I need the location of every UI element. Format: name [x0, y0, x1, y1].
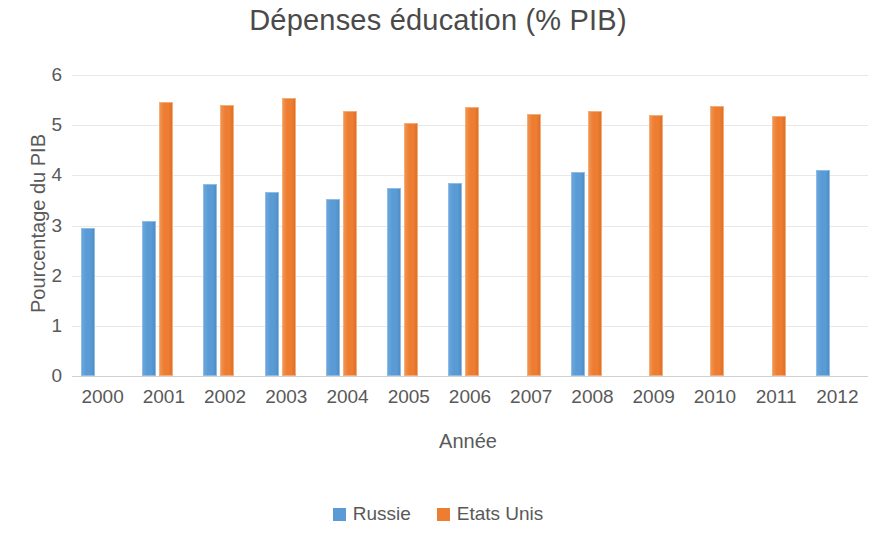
bar-russie-2004[interactable] [326, 199, 340, 376]
y-axis-tick-label: 1 [0, 315, 62, 337]
chart-legend: RussieEtats Unis [0, 503, 876, 525]
y-axis-tick-label: 5 [0, 114, 62, 136]
x-axis-tick-label: 2007 [510, 386, 552, 408]
bar-etats-unis-2010[interactable] [710, 106, 724, 376]
bar-etats-unis-2009[interactable] [649, 115, 663, 376]
bar-russie-2001[interactable] [142, 221, 156, 376]
legend-entry-russie[interactable]: Russie [333, 503, 411, 525]
bar-group [746, 75, 807, 376]
bar-etats-unis-2005[interactable] [404, 123, 418, 376]
bar-group [378, 75, 439, 376]
x-axis-baseline [72, 376, 868, 377]
y-axis-tick-labels: 0123456 [0, 75, 62, 376]
y-axis-tick-label: 4 [0, 164, 62, 186]
legend-swatch-icon [437, 508, 450, 521]
bar-group [439, 75, 500, 376]
legend-label: Russie [353, 503, 411, 525]
bar-russie-2006[interactable] [448, 183, 462, 376]
bar-etats-unis-2011[interactable] [772, 116, 786, 376]
bar-russie-2008[interactable] [571, 172, 585, 376]
bar-russie-2005[interactable] [387, 188, 401, 376]
bar-group [623, 75, 684, 376]
x-axis-tick-label: 2008 [571, 386, 613, 408]
y-axis-tick-label: 6 [0, 64, 62, 86]
x-axis-tick-label: 2009 [633, 386, 675, 408]
legend-swatch-icon [333, 508, 346, 521]
bar-group [72, 75, 133, 376]
x-axis-tick-label: 2001 [143, 386, 185, 408]
bar-etats-unis-2007[interactable] [527, 114, 541, 376]
legend-entry-etats-unis[interactable]: Etats Unis [437, 503, 544, 525]
bar-group [256, 75, 317, 376]
x-axis-tick-label: 2012 [816, 386, 858, 408]
bar-group [317, 75, 378, 376]
bar-group [684, 75, 745, 376]
bar-group [194, 75, 255, 376]
x-axis-tick-label: 2005 [388, 386, 430, 408]
x-axis-title: Année [60, 430, 876, 453]
bar-etats-unis-2004[interactable] [343, 111, 357, 376]
x-axis-tick-label: 2000 [81, 386, 123, 408]
bar-russie-2000[interactable] [81, 228, 95, 376]
bar-etats-unis-2006[interactable] [465, 107, 479, 376]
bar-group [133, 75, 194, 376]
x-axis-tick-label: 2010 [694, 386, 736, 408]
bar-russie-2003[interactable] [265, 192, 279, 376]
legend-label: Etats Unis [457, 503, 544, 525]
bar-group [807, 75, 868, 376]
bar-group [562, 75, 623, 376]
x-axis-tick-label: 2002 [204, 386, 246, 408]
y-axis-tick-label: 2 [0, 265, 62, 287]
x-axis-tick-labels: 2000200120022003200420052006200720082009… [72, 386, 868, 416]
bar-etats-unis-2002[interactable] [220, 105, 234, 376]
x-axis-tick-label: 2006 [449, 386, 491, 408]
bar-chart: Dépenses éducation (% PIB) Pourcentage d… [0, 0, 876, 533]
x-axis-tick-label: 2011 [756, 386, 797, 408]
bar-russie-2002[interactable] [203, 184, 217, 376]
chart-title: Dépenses éducation (% PIB) [0, 4, 876, 37]
x-axis-tick-label: 2004 [326, 386, 368, 408]
bar-etats-unis-2008[interactable] [588, 111, 602, 376]
bar-group [501, 75, 562, 376]
plot-area [72, 75, 868, 376]
bar-russie-2012[interactable] [816, 170, 830, 376]
y-axis-tick-label: 3 [0, 215, 62, 237]
y-axis-tick-label: 0 [0, 365, 62, 387]
x-axis-tick-label: 2003 [265, 386, 307, 408]
bar-etats-unis-2001[interactable] [159, 102, 173, 376]
bar-etats-unis-2003[interactable] [282, 98, 296, 376]
